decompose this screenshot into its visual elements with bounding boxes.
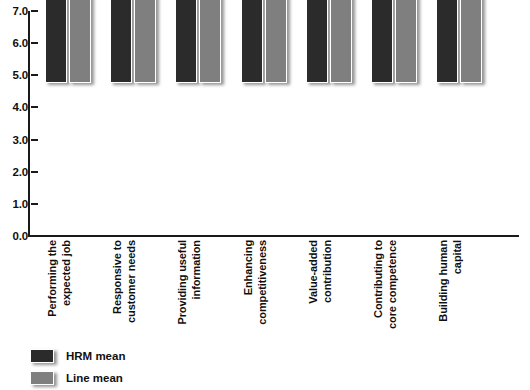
bar-hrm-mean[interactable] <box>45 0 67 83</box>
category-label-line-1: Value-added <box>307 240 321 350</box>
bar-hrm-mean[interactable] <box>175 0 197 83</box>
category-label-line-1: Enhancing <box>242 240 256 350</box>
bar-hrm-mean[interactable] <box>371 0 393 83</box>
bar-line-mean[interactable] <box>330 0 352 83</box>
plot-area: 4.53.95.04.24.84.35.03.85.04.14.84.24.84… <box>0 0 530 237</box>
category-label-line-1: Providing useful <box>176 240 190 350</box>
bar-line-mean[interactable] <box>460 0 482 83</box>
bar-line-mean[interactable] <box>199 0 221 83</box>
category-label-line-1: Contributing to <box>372 240 386 350</box>
category-label-line-2: information <box>190 240 204 350</box>
bar-hrm-mean[interactable] <box>306 0 328 83</box>
bar-chart: 7.06.05.04.03.02.01.00.0 4.53.95.04.24.8… <box>0 0 530 390</box>
bar-hrm-mean[interactable] <box>241 0 263 83</box>
x-axis-category-label: Enhancingcompetitiveness <box>242 240 272 350</box>
bar-hrm-mean[interactable] <box>436 0 458 83</box>
category-label-line-1: Responsive to <box>111 240 125 350</box>
category-label-line-2: competitiveness <box>255 240 269 350</box>
category-label-line-2: capital <box>451 240 465 350</box>
category-label-line-2: customer needs <box>125 240 139 350</box>
bar-line-mean[interactable] <box>395 0 417 83</box>
bar-line-mean[interactable] <box>265 0 287 83</box>
bar-line-mean[interactable] <box>134 0 156 83</box>
legend-label: Line mean <box>66 371 123 385</box>
x-axis-category-label: Responsive tocustomer needs <box>111 240 141 350</box>
category-label-line-2: expected job <box>60 240 74 350</box>
x-axis-category-label: Performing theexpected job <box>46 240 76 350</box>
bar-hrm-mean[interactable] <box>110 0 132 83</box>
x-axis-category-label: Building humancapital <box>437 240 467 350</box>
category-label-line-2: contribution <box>320 240 334 350</box>
x-axis-category-label: Providing usefulinformation <box>176 240 206 350</box>
category-label-line-1: Performing the <box>46 240 60 350</box>
category-label-line-1: Building human <box>437 240 451 350</box>
category-label-line-2: core competence <box>386 240 400 350</box>
legend-label: HRM mean <box>66 349 125 363</box>
bar-line-mean[interactable] <box>69 0 91 83</box>
x-axis-category-label: Contributing tocore competence <box>372 240 402 350</box>
legend-swatch <box>30 349 54 363</box>
x-axis-category-label: Value-addedcontribution <box>307 240 337 350</box>
legend-swatch <box>30 371 54 385</box>
